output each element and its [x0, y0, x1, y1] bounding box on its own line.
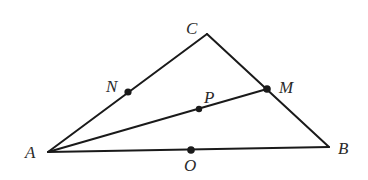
triangle-diagram: A B C N M P O	[0, 0, 368, 180]
point-o	[187, 146, 195, 154]
point-p	[196, 106, 202, 112]
label-m: M	[278, 78, 294, 97]
label-a: A	[24, 143, 36, 162]
label-o: O	[184, 156, 196, 175]
label-b: B	[338, 139, 349, 158]
label-n: N	[105, 77, 119, 96]
label-c: C	[186, 19, 198, 38]
segment-am	[48, 89, 267, 152]
point-m	[263, 85, 271, 93]
label-p: P	[203, 88, 214, 107]
point-n	[124, 88, 131, 95]
